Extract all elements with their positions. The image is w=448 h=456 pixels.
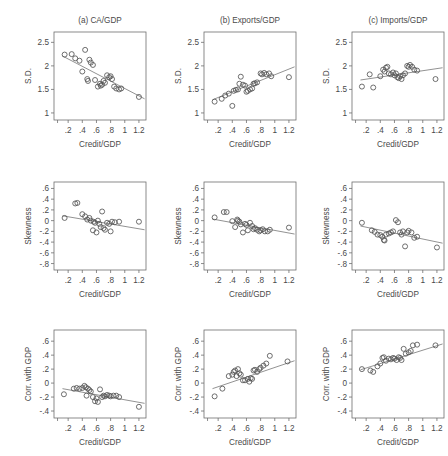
y-tick-label: .6 <box>42 184 49 193</box>
y-axis-title: Corr. with GDP <box>24 346 33 401</box>
x-tick-label: 1 <box>420 424 425 433</box>
y-tick-label: -.4 <box>39 407 49 416</box>
x-tick-label: .2 <box>363 126 370 135</box>
x-tick-label: 1.2 <box>133 276 145 285</box>
x-tick-label: .6 <box>391 276 398 285</box>
y-tick-label: -.6 <box>39 249 49 258</box>
y-tick-label: -.2 <box>337 393 347 402</box>
x-tick-label: .6 <box>93 276 100 285</box>
x-tick-label: .8 <box>107 126 114 135</box>
x-tick-label: 1.2 <box>283 424 295 433</box>
data-point <box>83 47 88 52</box>
x-tick-label: .6 <box>93 424 100 433</box>
x-tick-label: .6 <box>391 424 398 433</box>
x-tick-label: 1.2 <box>431 276 443 285</box>
x-tick-label: .2 <box>363 276 370 285</box>
x-tick-label: .2 <box>65 424 72 433</box>
data-point <box>378 74 383 79</box>
y-tick-label: 2 <box>44 62 49 71</box>
data-point <box>233 225 238 230</box>
y-tick-label: .6 <box>192 184 199 193</box>
x-tick-label: .4 <box>377 126 384 135</box>
x-tick-label: .8 <box>257 276 264 285</box>
data-point <box>245 228 250 233</box>
y-tick-label: -.8 <box>337 260 347 269</box>
plot-frame <box>54 330 146 418</box>
data-point <box>212 394 217 399</box>
x-tick-label: 1 <box>122 424 127 433</box>
y-axis-title: Skewness <box>322 207 331 244</box>
regression-line <box>212 67 294 100</box>
x-tick-label: .6 <box>243 126 250 135</box>
data-point <box>415 68 420 73</box>
scatter-panel-a-skew: .6.4.20-.2-.4-.6-.8.2.4.6.811.2SkewnessC… <box>22 164 148 306</box>
data-points <box>359 342 438 374</box>
x-axis-title: Credit/GDP <box>229 438 271 447</box>
x-tick-label: 1 <box>122 126 127 135</box>
x-axis-title: Credit/GDP <box>229 290 271 299</box>
data-point <box>80 69 85 74</box>
y-tick-label: 2.5 <box>38 38 50 47</box>
y-tick-label: .2 <box>42 206 49 215</box>
data-point <box>136 404 141 409</box>
plot-frame <box>352 330 444 418</box>
x-tick-label: .4 <box>79 126 86 135</box>
x-tick-label: .2 <box>363 424 370 433</box>
y-axis-title: Skewness <box>174 207 183 244</box>
data-point <box>286 75 291 80</box>
scatter-panel-c-sd: (c) Imports/GDP11.522.5.2.4.6.811.2S.D.C… <box>320 14 446 156</box>
data-point <box>230 103 235 108</box>
data-point <box>136 219 141 224</box>
y-tick-label: -.4 <box>337 407 347 416</box>
x-tick-label: .8 <box>405 126 412 135</box>
y-tick-label: -.6 <box>189 249 199 258</box>
x-tick-label: .6 <box>243 424 250 433</box>
panel-title: (a) CA/GDP <box>78 16 122 25</box>
y-tick-label: 1.5 <box>38 85 50 94</box>
y-tick-label: 2.5 <box>336 38 348 47</box>
y-tick-label: .6 <box>340 337 347 346</box>
y-tick-label: .4 <box>192 195 199 204</box>
y-tick-label: .4 <box>192 351 199 360</box>
x-tick-label: 1 <box>122 276 127 285</box>
data-points <box>212 70 291 108</box>
y-tick-label: .2 <box>192 206 199 215</box>
data-points <box>61 383 141 409</box>
x-axis-title: Credit/GDP <box>377 438 419 447</box>
data-point <box>108 229 113 234</box>
y-tick-label: .4 <box>340 351 347 360</box>
data-point <box>267 353 272 358</box>
x-tick-label: .8 <box>107 276 114 285</box>
x-tick-label: 1 <box>420 126 425 135</box>
y-tick-label: .2 <box>192 365 199 374</box>
x-tick-label: 1.2 <box>431 424 443 433</box>
y-tick-label: 0 <box>342 217 347 226</box>
y-tick-label: .6 <box>192 337 199 346</box>
x-tick-label: 1 <box>272 424 277 433</box>
x-tick-label: .8 <box>257 424 264 433</box>
scatter-panel-c-skew: .6.4.20-.2-.4-.6-.8.2.4.6.811.2SkewnessC… <box>320 164 446 306</box>
x-axis-title: Credit/GDP <box>79 290 121 299</box>
x-tick-label: 1.2 <box>133 126 145 135</box>
y-tick-label: -.4 <box>337 238 347 247</box>
x-tick-label: .4 <box>229 424 236 433</box>
y-tick-label: 2 <box>194 62 199 71</box>
x-tick-label: .8 <box>405 276 412 285</box>
data-points <box>359 62 438 90</box>
plot-frame <box>54 32 146 120</box>
y-tick-label: -.6 <box>337 249 347 258</box>
y-tick-label: .6 <box>42 337 49 346</box>
data-point <box>385 64 390 69</box>
data-point <box>61 392 66 397</box>
x-tick-label: .8 <box>107 424 114 433</box>
y-axis-title: Corr. with GDP <box>322 346 331 401</box>
regression-line <box>212 361 294 389</box>
data-point <box>433 77 438 82</box>
x-axis-title: Credit/GDP <box>229 140 271 149</box>
y-tick-label: 1 <box>44 109 49 118</box>
y-tick-label: .6 <box>340 184 347 193</box>
scatter-panel-a-corr: .6.4.20-.2-.4.2.4.6.811.2Corr. with GDPC… <box>22 312 148 454</box>
data-point <box>98 387 103 392</box>
x-tick-label: .4 <box>229 276 236 285</box>
scatter-panel-b-skew: .6.4.20-.2-.4-.6-.8.2.4.6.811.2SkewnessC… <box>172 164 298 306</box>
